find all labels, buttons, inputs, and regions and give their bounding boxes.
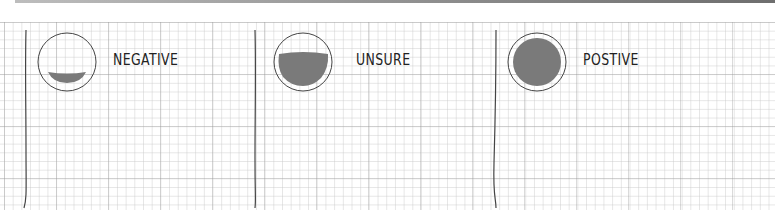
panel-positive: POSTIVE	[507, 32, 707, 92]
negative-label: NEGATIVE	[113, 50, 178, 69]
panel-negative: NEGATIVE	[37, 32, 237, 92]
negative-indicator-icon	[37, 32, 97, 92]
positive-indicator-icon	[507, 32, 567, 92]
panel-divider-left	[20, 28, 32, 210]
unsure-indicator-icon	[273, 32, 333, 92]
panel-divider-middle	[250, 28, 262, 210]
positive-label: POSTIVE	[583, 50, 639, 69]
panel-unsure: UNSURE	[273, 32, 473, 92]
unsure-label: UNSURE	[356, 50, 410, 69]
panel-divider-right	[490, 28, 502, 210]
top-rule	[15, 0, 775, 3]
